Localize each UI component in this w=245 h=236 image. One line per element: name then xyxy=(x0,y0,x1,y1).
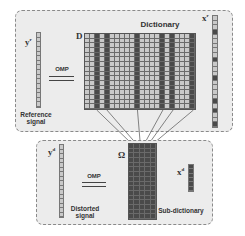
omp-label-bottom: OMP xyxy=(82,173,106,179)
distorted-vector-symbol: yd xyxy=(48,147,55,157)
subdictionary-symbol: Ω xyxy=(118,150,125,160)
distorted-signal-label: Distorted signal xyxy=(67,206,103,220)
distorted-sparse-coef-vector xyxy=(188,164,194,192)
subdictionary-matrix xyxy=(128,143,157,220)
distorted-coef-symbol: xd xyxy=(177,167,184,177)
distorted-signal-vector xyxy=(59,144,64,218)
omp-equals-bottom xyxy=(82,182,106,187)
subdictionary-label: Sub-dictionary xyxy=(156,208,206,215)
